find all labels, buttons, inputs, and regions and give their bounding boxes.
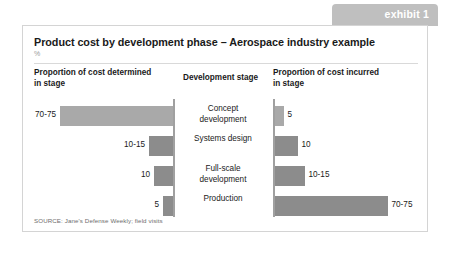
bar-left-value: 10-15: [124, 140, 145, 149]
stage-label: Production: [175, 194, 271, 205]
exhibit-card: Product cost by development phase – Aero…: [22, 25, 428, 232]
bar-cost-incurred: [275, 166, 305, 186]
bar-cost-determined: [163, 196, 173, 216]
bar-right-value: 70-75: [392, 200, 413, 209]
bar-right-value: 10: [302, 140, 311, 149]
bar-cost-determined: [149, 136, 173, 156]
bar-right-value: 10-15: [309, 170, 330, 179]
stage-label: Systems design: [175, 134, 271, 145]
bar-cost-incurred: [275, 106, 284, 126]
bar-cost-incurred: [275, 136, 298, 156]
exhibit-page: exhibit 1 Product cost by development ph…: [0, 0, 450, 259]
bar-cost-determined: [60, 106, 173, 126]
diverging-bar-chart: 70-75 Concept development 5 10-15 System…: [23, 26, 427, 231]
bar-cost-determined: [154, 166, 173, 186]
bar-cost-incurred: [275, 196, 388, 216]
bar-left-value: 10: [141, 170, 150, 179]
exhibit-tab-label: exhibit 1: [385, 8, 429, 20]
stage-label: Full-scale development: [175, 164, 271, 185]
bar-right-value: 5: [288, 110, 293, 119]
chart-row: 10 Full-scale development 10-15: [23, 162, 427, 192]
stage-label: Concept development: [175, 104, 271, 125]
chart-row: 70-75 Concept development 5: [23, 102, 427, 132]
chart-row: 10-15 Systems design 10: [23, 132, 427, 162]
bar-left-value: 5: [154, 200, 159, 209]
bar-left-value: 70-75: [35, 110, 56, 119]
exhibit-tab: exhibit 1: [332, 4, 438, 26]
source-note: SOURCE: Jane's Defense Weekly; field vis…: [34, 217, 163, 224]
